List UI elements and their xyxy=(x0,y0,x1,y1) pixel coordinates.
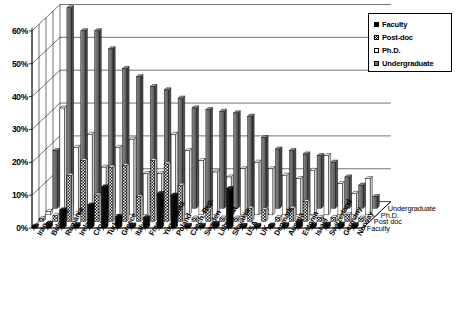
bar xyxy=(220,109,227,208)
y-axis-tick-label: 30% xyxy=(2,124,28,134)
legend-item-undergrad[interactable]: Undergraduate xyxy=(374,57,451,70)
legend-swatch-icon xyxy=(374,22,379,27)
y-axis-tick-label: 10% xyxy=(2,190,28,200)
bar xyxy=(262,135,269,208)
depth-axis-tick-label: Faculty xyxy=(367,224,390,233)
bar xyxy=(122,163,129,221)
legend-swatch-icon xyxy=(374,61,379,66)
bar xyxy=(60,106,67,215)
bar xyxy=(359,183,366,208)
bar xyxy=(143,172,150,215)
legend-label: Ph.D. xyxy=(382,46,400,55)
bar xyxy=(129,137,136,215)
bar xyxy=(234,111,241,208)
legend-item-postdoc[interactable]: Post-doc xyxy=(374,31,451,44)
bar xyxy=(150,159,157,222)
chart-figure: 0%10%20%30%40%50%60% IranBulgariaRumania… xyxy=(0,0,460,325)
bar xyxy=(192,106,199,208)
bar xyxy=(289,149,296,209)
bar xyxy=(324,154,331,215)
bar xyxy=(74,145,81,214)
bar xyxy=(255,160,262,215)
legend-label: Faculty xyxy=(382,20,407,29)
legend-label: Undergraduate xyxy=(382,59,433,68)
y-axis-tick-label: 0% xyxy=(2,223,28,233)
bar xyxy=(275,147,282,208)
bar xyxy=(164,162,171,222)
bar xyxy=(53,149,60,209)
bar xyxy=(268,167,275,215)
y-axis-tick-label: 60% xyxy=(2,26,28,36)
bar xyxy=(136,75,143,209)
bar xyxy=(248,114,255,208)
bar xyxy=(331,160,338,208)
bar xyxy=(116,145,123,214)
bar xyxy=(206,108,213,209)
y-axis-tick-label: 50% xyxy=(2,59,28,69)
legend-swatch-icon xyxy=(374,35,379,40)
bar xyxy=(296,177,303,215)
chart-legend: FacultyPost-docPh.D.Undergraduate xyxy=(368,13,452,72)
legend-label: Post-doc xyxy=(382,33,413,42)
legend-item-phd[interactable]: Ph.D. xyxy=(374,44,451,57)
bar xyxy=(95,29,102,208)
legend-item-faculty[interactable]: Faculty xyxy=(374,18,451,31)
bar xyxy=(310,168,317,214)
bar xyxy=(373,195,380,209)
y-axis-tick-label: 20% xyxy=(2,157,28,167)
bar xyxy=(109,165,116,221)
bar xyxy=(261,208,268,222)
legend-swatch-icon xyxy=(374,48,379,53)
bar-series xyxy=(32,6,379,228)
bar xyxy=(88,132,95,215)
y-axis-tick-label: 40% xyxy=(2,92,28,102)
bar xyxy=(317,154,324,209)
